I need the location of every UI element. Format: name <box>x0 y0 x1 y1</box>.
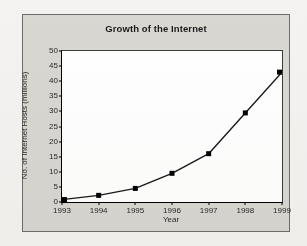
x-tick-label: 1999 <box>273 207 291 215</box>
y-axis-title: No. of Internet Hosts (millions) <box>19 0 31 50</box>
y-tick-label: 50 <box>49 47 58 55</box>
x-tick-mark <box>245 202 246 205</box>
data-point-marker <box>133 186 138 191</box>
chart-title: Growth of the Internet <box>23 23 289 34</box>
x-tick-mark <box>282 202 283 205</box>
y-tick-mark <box>59 51 62 52</box>
y-tick-mark <box>59 81 62 82</box>
x-tick-mark <box>98 202 99 205</box>
y-tick-mark <box>59 141 62 142</box>
x-tick-mark <box>135 202 136 205</box>
x-axis-title: Year <box>61 215 281 224</box>
chart-panel: Growth of the Internet 05101520253035404… <box>22 14 290 232</box>
y-tick-label: 0 <box>54 198 58 206</box>
y-tick-label: 5 <box>54 183 58 191</box>
data-point-marker <box>170 171 175 176</box>
y-tick-mark <box>59 96 62 97</box>
y-tick-label: 45 <box>49 62 58 70</box>
y-tick-mark <box>59 66 62 67</box>
data-point-marker <box>243 110 248 115</box>
y-tick-label: 20 <box>49 138 58 146</box>
y-tick-label: 25 <box>49 123 58 131</box>
data-point-marker <box>277 70 282 75</box>
x-tick-label: 1994 <box>90 207 108 215</box>
x-tick-label: 1996 <box>163 207 181 215</box>
y-tick-label: 40 <box>49 77 58 85</box>
y-tick-mark <box>59 186 62 187</box>
x-tick-label: 1993 <box>53 207 71 215</box>
data-point-marker <box>206 151 211 156</box>
y-tick-label: 30 <box>49 107 58 115</box>
series-line <box>62 72 282 199</box>
data-point-marker <box>62 197 67 202</box>
x-tick-label: 1995 <box>126 207 144 215</box>
y-tick-mark <box>59 156 62 157</box>
x-tick-mark <box>172 202 173 205</box>
y-axis-title-label: No. of Internet Hosts (millions) <box>19 50 31 201</box>
y-tick-mark <box>59 126 62 127</box>
x-tick-label: 1998 <box>236 207 254 215</box>
plot-area: 05101520253035404550 1993199419951996199… <box>61 50 283 203</box>
x-tick-mark <box>62 202 63 205</box>
series-markers <box>62 70 282 202</box>
data-point-marker <box>96 193 101 198</box>
y-tick-mark <box>59 171 62 172</box>
y-tick-label: 15 <box>49 153 58 161</box>
y-tick-label: 10 <box>49 168 58 176</box>
x-tick-mark <box>208 202 209 205</box>
chart-page: Growth of the Internet 05101520253035404… <box>0 0 307 246</box>
y-tick-mark <box>59 111 62 112</box>
y-tick-label: 35 <box>49 92 58 100</box>
x-tick-label: 1997 <box>200 207 218 215</box>
line-series-svg <box>62 51 282 202</box>
